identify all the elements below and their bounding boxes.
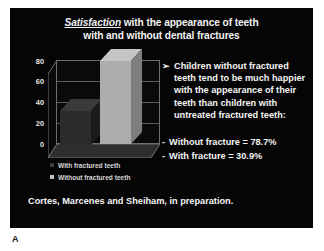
y-tick-label-0: 0 [40, 140, 44, 149]
bar-without-fractured-teeth [100, 61, 131, 144]
legend-swatch-with-fractured-teeth [50, 163, 54, 167]
figure-label: A [12, 234, 19, 244]
title-emphasis: Satisfaction [64, 17, 121, 28]
citation-text: Cortes, Marcenes and Sheiham, in prepara… [28, 196, 233, 206]
y-tick-label-40: 40 [36, 98, 44, 107]
stat-dash-2: - [162, 151, 165, 161]
presentation-slide: Satisfaction with the appearance of teet… [10, 8, 313, 228]
stat-without-fracture: -Without fracture = 78.7% [162, 135, 312, 149]
stat-dash-1: - [162, 137, 165, 147]
legend-item-with-fractured-teeth: With fractured teeth [50, 160, 165, 170]
y-tick-label-80: 80 [36, 57, 44, 66]
bullet-text: Children without fractured teeth tend to… [174, 60, 312, 121]
title-line2: with and without dental fractures [83, 30, 239, 41]
y-tick-label-60: 60 [36, 77, 44, 86]
plot-area [48, 60, 160, 158]
chart-legend: With fractured teeth Without fractured t… [50, 160, 165, 184]
y-tick-label-20: 20 [36, 119, 44, 128]
bar-chart: 0 20 40 60 80 [24, 60, 164, 172]
slide-title: Satisfaction with the appearance of teet… [10, 16, 313, 42]
stat-with-fracture: -With fracture = 30.9% [162, 149, 312, 163]
statistics-list: -Without fracture = 78.7% -With fracture… [162, 135, 312, 163]
bullet-item: ➢ Children without fractured teeth tend … [162, 60, 312, 121]
legend-label-with-fractured-teeth: With fractured teeth [58, 162, 120, 169]
stat-label-with-fracture: With fracture = 30.9% [169, 151, 262, 161]
arrow-bullet-icon: ➢ [162, 60, 170, 72]
legend-swatch-without-fractured-teeth [50, 175, 54, 179]
title-line1-rest: with the appearance of teeth [121, 17, 259, 28]
legend-label-without-fractured-teeth: Without fractured teeth [58, 174, 130, 181]
legend-item-without-fractured-teeth: Without fractured teeth [50, 172, 165, 182]
bar-with-fractured-teeth [60, 111, 91, 144]
stat-label-without-fracture: Without fracture = 78.7% [169, 137, 276, 147]
bullet-text-block: ➢ Children without fractured teeth tend … [162, 60, 312, 163]
